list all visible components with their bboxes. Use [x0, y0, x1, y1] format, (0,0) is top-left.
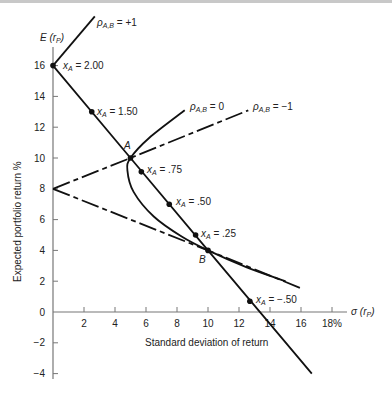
rho-zero-label: ρA,B = 0 [189, 101, 224, 113]
y-tick-label: 6 [39, 214, 45, 225]
axes: −4−2024681012141624681012141618% [34, 47, 347, 379]
y-tick-label: 0 [39, 307, 45, 318]
y-tick-label: 2 [39, 276, 45, 287]
y-tick-label: −4 [34, 368, 46, 379]
data-point [247, 298, 253, 304]
y-tick-label: 14 [34, 91, 46, 102]
xa-050-label: xA = .50 [175, 196, 211, 208]
x-tick-label: 6 [143, 318, 149, 329]
point-b-label: B [199, 254, 206, 265]
x-axis-title: Standard deviation of return [145, 337, 268, 348]
x-axis-symbol: σ (rP) [351, 306, 374, 318]
y-tick-label: 8 [39, 183, 45, 194]
xa-200-label: xA = 2.00 [62, 60, 104, 72]
x-tick-label: 8 [174, 318, 180, 329]
y-axis-symbol: E (rP) [40, 32, 64, 44]
xa-025-label: xA = .25 [200, 228, 236, 240]
y-tick-label: 10 [34, 153, 46, 164]
x-tick-label: 16 [295, 318, 307, 329]
data-point [128, 155, 134, 161]
y-tick-label: 4 [39, 245, 45, 256]
data-point [89, 109, 95, 115]
xa-075-label: xA = .75 [146, 164, 182, 176]
y-tick-label: 12 [34, 122, 46, 133]
y-axis-title: Expected portfolio return % [12, 161, 23, 282]
point-a-label: A [123, 140, 131, 151]
data-point [166, 201, 172, 207]
y-tick-label: 16 [34, 60, 46, 71]
xa-150-label: xA = 1.50 [96, 106, 138, 118]
data-point [193, 232, 199, 238]
data-point [139, 169, 145, 175]
data-point [50, 63, 56, 69]
data-point [205, 248, 211, 254]
x-tick-label: 2 [81, 318, 87, 329]
x-tick-label: 18% [322, 318, 342, 329]
chart-canvas: −4−2024681012141624681012141618% E (rP) … [0, 0, 392, 400]
x-tick-label: 12 [233, 318, 245, 329]
x-tick-label: 10 [202, 318, 214, 329]
rho-plus1-label: ρA,B = +1 [96, 17, 137, 29]
xa-m050-label: xA = −.50 [255, 294, 297, 306]
rho-minus1-label: ρA,B = −1 [252, 101, 293, 113]
x-tick-label: 4 [112, 318, 118, 329]
rho-minus1-upper-line [53, 110, 248, 189]
y-tick-label: −2 [34, 337, 46, 348]
